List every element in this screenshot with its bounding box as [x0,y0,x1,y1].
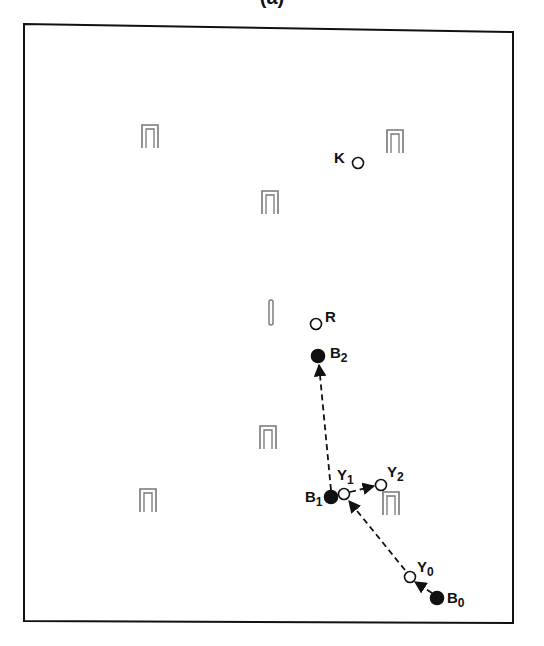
hoop-icon [140,489,156,512]
ball-label-B1: B1 [305,488,323,509]
hoop-icon [142,125,158,148]
ball-label-Y0: Y0 [417,558,434,579]
ball-label-K: K [334,149,345,166]
ball-label-B2: B2 [330,344,348,365]
ball-K [353,158,364,169]
hoop-icon [260,426,276,449]
trajectory-arrow-B1-to-B2 [319,365,331,490]
hoop-icon [383,492,399,515]
ball-label-Y2: Y2 [387,463,404,484]
ball-Y2 [376,480,387,491]
hoop-icon [262,191,278,214]
ball-label-Y1: Y1 [337,466,354,487]
ball-B0 [431,592,444,605]
trajectory-arrow-Y0-to-Y1 [349,501,405,570]
peg-icon [269,300,273,325]
ball-Y1 [339,489,350,500]
ball-B2 [312,350,325,363]
croquet-lawn-diagram: KRB2B1Y1Y2Y0B0 [0,0,544,646]
hoop-icon [387,130,403,153]
ball-label-B0: B0 [447,589,465,610]
ball-Y0 [405,572,416,583]
ball-B1 [325,491,338,504]
trajectory-arrow-B0-to-Y0 [415,582,432,593]
ball-label-R: R [325,308,336,325]
ball-R [311,319,322,330]
